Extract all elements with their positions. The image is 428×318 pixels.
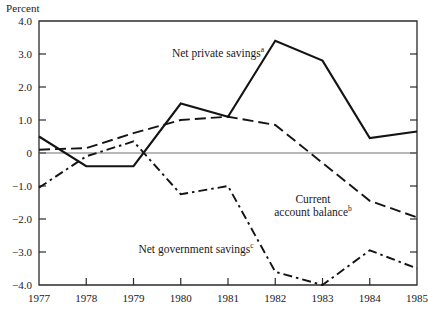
footnote-marker: c: [250, 241, 253, 250]
y-tick-label-8: −4.0: [0, 279, 32, 291]
annotation-net-government-savings: Net government savingsc: [138, 243, 253, 256]
annotation-line-1: Current: [274, 193, 352, 206]
y-tick-label-0: 4.0: [0, 15, 32, 27]
x-tick-label-1980: 1980: [170, 292, 192, 304]
annotation-line-2: account balanceb: [274, 206, 352, 219]
y-tick-label-1: 3.0: [0, 48, 32, 60]
y-tick-label-4: 0: [0, 147, 32, 159]
series-line-net-government-savings: [39, 141, 417, 285]
y-tick-label-3: 1.0: [0, 114, 32, 126]
annotation-text: Net private savings: [172, 47, 261, 59]
y-tick-label-5: −1.0: [0, 180, 32, 192]
footnote-marker: b: [348, 204, 352, 213]
y-tick-label-2: 2.0: [0, 81, 32, 93]
annotation-text: Net government savings: [138, 243, 250, 255]
x-tick-label-1985: 1985: [406, 292, 428, 304]
y-tick-label-7: −3.0: [0, 246, 32, 258]
x-tick-label-1983: 1983: [312, 292, 334, 304]
x-tick-label-1984: 1984: [359, 292, 381, 304]
y-tick-label-6: −2.0: [0, 213, 32, 225]
footnote-marker: a: [261, 45, 264, 54]
x-tick-label-1977: 1977: [28, 292, 50, 304]
x-tick-label-1979: 1979: [123, 292, 145, 304]
x-tick-label-1981: 1981: [217, 292, 239, 304]
annotation-current-account-balance: Currentaccount balanceb: [274, 193, 352, 219]
x-tick-label-1978: 1978: [75, 292, 97, 304]
annotation-net-private-savings: Net private savingsa: [172, 47, 264, 60]
x-tick-label-1982: 1982: [264, 292, 286, 304]
